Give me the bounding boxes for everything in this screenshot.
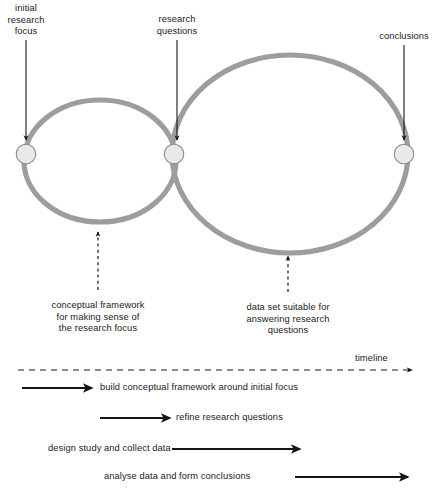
timeline-label: timeline [355, 353, 388, 364]
node-research-questions [164, 144, 184, 164]
node-initial-research-focus [16, 144, 36, 164]
label-refine-research-questions: refine research questions [176, 412, 283, 423]
label-conclusions: conclusions [379, 31, 429, 43]
label-build-conceptual-framework: build conceptual framework around initia… [100, 382, 298, 393]
pointer-arrow-group [26, 40, 404, 140]
dashed-arrow-group [98, 232, 288, 292]
caption-conceptual-framework: conceptual framework for making sense of… [52, 300, 145, 335]
diagram-canvas: initial research focus research question… [0, 0, 436, 488]
process-arrow-group [22, 388, 408, 477]
label-initial-research-focus: initial research focus [8, 3, 45, 38]
label-design-study-collect-data: design study and collect data [48, 443, 171, 454]
label-research-questions: research questions [157, 14, 198, 37]
left-loop [24, 100, 176, 222]
right-loop [172, 55, 408, 253]
node-group [16, 144, 414, 164]
loop-group [24, 55, 408, 253]
caption-data-set: data set suitable for answering research… [246, 302, 329, 337]
node-conclusions [394, 144, 414, 164]
label-analyse-data-form-conclusions: analyse data and form conclusions [104, 471, 250, 482]
